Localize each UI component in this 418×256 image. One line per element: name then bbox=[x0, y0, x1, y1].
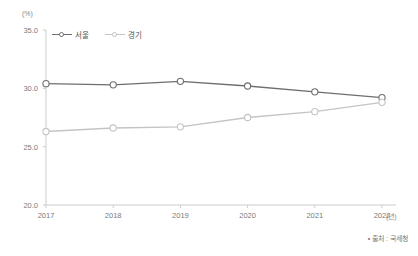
chart-plot-area bbox=[0, 0, 418, 256]
chart-container: (%) 35.0 30.0 25.0 20.0 2017 2018 2019 2… bbox=[0, 0, 418, 256]
source-note: • 출처 : 국세청 bbox=[368, 233, 408, 243]
